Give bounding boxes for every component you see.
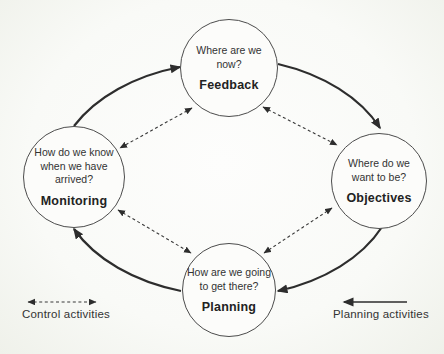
node-feedback-label: Feedback <box>199 78 258 92</box>
question-line: Where do we <box>348 157 410 171</box>
node-objectives: Where do we want to be? Objectives <box>331 133 427 229</box>
node-monitoring-label: Monitoring <box>41 194 108 208</box>
node-planning-label: Planning <box>202 300 256 314</box>
solid-arc-planning-to-monitoring <box>74 229 181 291</box>
question-line: now? <box>196 58 261 72</box>
legend-control-label: Control activities <box>22 308 110 320</box>
solid-arc-monitoring-to-feedback <box>74 67 180 126</box>
node-objectives-label: Objectives <box>346 191 411 205</box>
dashed-link-feedback-objectives <box>263 107 337 145</box>
question-line: How do we know <box>34 146 113 160</box>
diagram-canvas: Where are we now? Feedback How do we kno… <box>0 0 444 354</box>
node-feedback: Where are we now? Feedback <box>180 19 278 117</box>
dashed-link-monitoring-planning <box>118 210 191 253</box>
node-planning: How are we going to get there? Planning <box>182 243 276 337</box>
node-objectives-question: Where do we want to be? <box>348 157 410 184</box>
question-line: when we have <box>34 160 113 174</box>
solid-arc-objectives-to-planning <box>278 227 382 291</box>
node-planning-question: How are we going to get there? <box>187 266 271 293</box>
question-line: How are we going <box>187 266 271 280</box>
question-line: want to be? <box>348 171 410 185</box>
dashed-link-feedback-monitoring <box>120 108 192 148</box>
question-line: Where are we <box>196 44 261 58</box>
question-line: arrived? <box>34 173 113 187</box>
node-monitoring: How do we know when we have arrived? Mon… <box>23 126 125 228</box>
node-monitoring-question: How do we know when we have arrived? <box>34 146 113 187</box>
node-feedback-question: Where are we now? <box>196 44 261 71</box>
solid-arc-feedback-to-objectives <box>278 64 380 128</box>
dashed-link-objectives-planning <box>264 208 332 253</box>
legend-planning-label: Planning activities <box>333 308 429 320</box>
question-line: to get there? <box>187 280 271 294</box>
